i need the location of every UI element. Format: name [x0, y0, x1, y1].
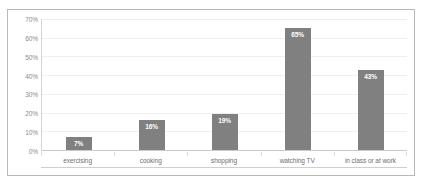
bar[interactable]: 43%	[358, 70, 384, 150]
bar[interactable]: 19%	[212, 114, 238, 150]
bar[interactable]: 65%	[285, 28, 311, 150]
y-axis-tick-label: 30%	[25, 91, 38, 98]
y-axis-tick-label: 50%	[25, 53, 38, 60]
bar-data-label: 16%	[145, 123, 158, 130]
bar-data-label: 7%	[74, 140, 83, 147]
y-axis-tick-label: 40%	[25, 72, 38, 79]
bar-data-label: 65%	[291, 31, 304, 38]
bar-data-label: 43%	[364, 73, 377, 80]
y-axis-tick-label: 70%	[25, 16, 38, 23]
y-axis-tick-label: 10%	[25, 129, 38, 136]
plot-area: 7% 16% 19% 65%	[41, 19, 407, 151]
bar[interactable]: 16%	[139, 120, 165, 150]
y-axis-tick-label: 60%	[25, 34, 38, 41]
x-axis-category-label: shopping	[187, 152, 260, 168]
x-axis-category-label: in class or at work	[334, 152, 407, 168]
bar-slot: 16%	[115, 19, 188, 150]
bar[interactable]: 7%	[66, 137, 92, 150]
y-axis: 70% 60% 50% 40% 30% 20% 10% 0%	[8, 19, 41, 151]
bars-layer: 7% 16% 19% 65%	[42, 19, 407, 150]
bar-slot: 19%	[188, 19, 261, 150]
bar-data-label: 19%	[218, 117, 231, 124]
bar-slot: 7%	[42, 19, 115, 150]
chart-container: 70% 60% 50% 40% 30% 20% 10% 0% 7%	[7, 9, 415, 176]
x-axis-end-tick	[406, 152, 407, 156]
bar-slot: 43%	[334, 19, 407, 150]
x-axis-category-label: cooking	[114, 152, 187, 168]
x-axis-baseline	[41, 167, 407, 168]
bar-slot: 65%	[261, 19, 334, 150]
x-axis-category-label: exercising	[41, 152, 114, 168]
chart-plot-wrapper: 70% 60% 50% 40% 30% 20% 10% 0% 7%	[8, 10, 414, 175]
x-axis: exercising cooking shopping watching TV …	[41, 152, 407, 168]
x-axis-category-label: watching TV	[261, 152, 334, 168]
y-axis-tick-label: 0%	[29, 148, 38, 155]
y-axis-tick-label: 20%	[25, 110, 38, 117]
